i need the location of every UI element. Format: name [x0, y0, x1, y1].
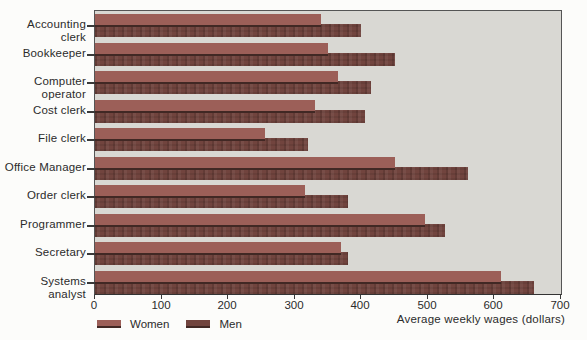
x-tick-label: 100 [139, 299, 183, 311]
legend-swatch-men [186, 320, 210, 328]
legend-label-women: Women [130, 318, 169, 330]
category-label: Computer operator [0, 75, 86, 101]
x-tick-label: 200 [205, 299, 249, 311]
y-tick-mark [87, 54, 95, 56]
bar-women [95, 271, 501, 284]
bar-women [95, 242, 341, 255]
category-row [95, 154, 561, 183]
bar-women [95, 128, 265, 141]
category-row [95, 182, 561, 211]
y-tick-mark [87, 196, 95, 198]
category-row [95, 68, 561, 97]
x-axis-title: Average weekly wages (dollars) [397, 313, 565, 325]
category-label: Office Manager [0, 161, 86, 174]
y-tick-mark [87, 82, 95, 84]
category-label: Systems analyst [0, 275, 86, 301]
y-tick-mark [87, 25, 95, 27]
category-label: Secretary [0, 246, 86, 259]
legend-swatch-women [97, 320, 121, 328]
category-label: Cost clerk [0, 104, 86, 117]
y-tick-mark [87, 111, 95, 113]
category-label: Order clerk [0, 189, 86, 202]
category-row [95, 239, 561, 268]
y-tick-mark [87, 282, 95, 284]
bar-women [95, 100, 315, 113]
bar-women [95, 14, 321, 27]
bar-women [95, 185, 305, 198]
y-tick-mark [87, 225, 95, 227]
x-tick-label: 600 [471, 299, 515, 311]
bar-women [95, 214, 425, 227]
y-tick-mark [87, 253, 95, 255]
x-tick-label: 300 [272, 299, 316, 311]
category-row [95, 11, 561, 40]
bar-women [95, 157, 395, 170]
category-row [95, 211, 561, 240]
category-row [95, 40, 561, 69]
category-label: Accounting clerk [0, 18, 86, 44]
category-row [95, 125, 561, 154]
category-label: File clerk [0, 132, 86, 145]
x-tick-label: 500 [405, 299, 449, 311]
x-tick-label: 0 [72, 299, 116, 311]
legend: Women Men [97, 318, 242, 330]
bar-women [95, 71, 338, 84]
category-row [95, 97, 561, 126]
category-label: Bookkeeper [0, 47, 86, 60]
y-tick-mark [87, 168, 95, 170]
legend-label-men: Men [219, 318, 241, 330]
y-tick-mark [87, 139, 95, 141]
bar-women [95, 43, 328, 56]
x-tick-label: 700 [538, 299, 582, 311]
category-row [95, 268, 561, 297]
x-tick-label: 400 [338, 299, 382, 311]
plot-area [94, 10, 562, 295]
category-label: Programmer [0, 218, 86, 231]
